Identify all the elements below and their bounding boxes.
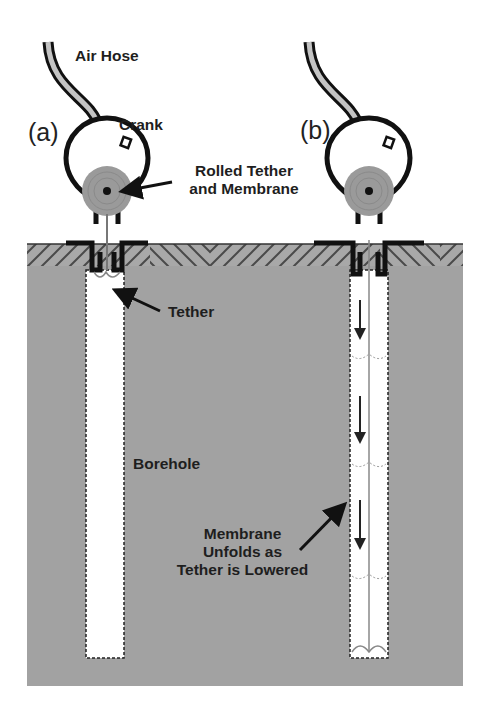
tether-label: Tether — [168, 303, 214, 321]
rolled-line-2: and Membrane — [170, 180, 318, 198]
unfold-line-1: Membrane — [150, 525, 335, 543]
rolled-tether-label: Rolled Tether and Membrane — [170, 162, 318, 198]
unfold-line-3: Tether is Lowered — [150, 561, 335, 579]
unfold-line-2: Unfolds as — [150, 543, 335, 561]
panel-label-a: (a) — [28, 118, 59, 147]
crank-a — [121, 137, 132, 148]
air-hose-label: Air Hose — [75, 47, 139, 65]
unfold-label: Membrane Unfolds as Tether is Lowered — [150, 525, 335, 579]
borehole-a — [86, 270, 124, 658]
crank-label: Crank — [119, 116, 163, 134]
rolled-line-1: Rolled Tether — [170, 162, 318, 180]
panel-label-b: (b) — [300, 116, 331, 145]
crank-b — [384, 137, 395, 148]
borehole-label: Borehole — [133, 455, 200, 473]
borehole-diagram — [0, 0, 483, 713]
